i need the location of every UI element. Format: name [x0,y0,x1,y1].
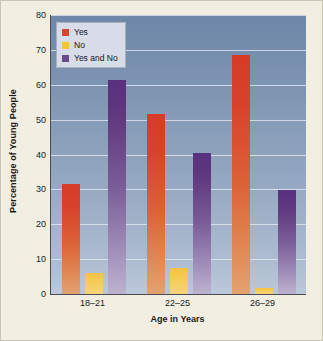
y-axis-title-text: Percentage of Young People [8,89,18,213]
y-axis-tick-60: 60 [36,80,46,90]
legend-item-yes[interactable]: Yes [62,27,118,37]
x-axis-tick-0: 18–21 [80,298,105,308]
gridline-0 [51,294,306,295]
legend-swatch-icon [62,29,69,36]
y-axis-tick-0: 0 [41,289,46,299]
y-axis-tick-80: 80 [36,10,46,20]
chart-legend: YesNoYes and No [56,22,126,68]
y-axis-tick-labels: 01020304050607080 [25,15,49,294]
x-axis-title: Age in Years [50,314,305,324]
x-axis-tick-labels: 18–2122–2526–29 [50,298,305,312]
legend-swatch-icon [62,42,69,49]
y-axis-tick-30: 30 [36,184,46,194]
bar-yes-and-no-1 [193,153,211,294]
y-axis-tick-10: 10 [36,254,46,264]
legend-label: Yes and No [74,54,118,63]
bar-no-0 [85,273,103,294]
chart-figure: Percentage of Young People 0102030405060… [0,0,323,341]
bar-no-2 [255,288,273,294]
bar-yes-and-no-0 [108,80,126,294]
bar-yes-2 [232,55,250,294]
bar-yes-1 [147,114,165,294]
legend-label: Yes [74,28,88,37]
legend-label: No [74,41,85,50]
bar-yes-0 [62,184,80,294]
x-axis-tick-1: 22–25 [165,298,190,308]
bar-no-1 [170,268,188,294]
x-axis-tick-2: 26–29 [250,298,275,308]
legend-item-yes-and-no[interactable]: Yes and No [62,53,118,63]
y-axis-tick-20: 20 [36,219,46,229]
y-axis-tick-70: 70 [36,45,46,55]
bar-yes-and-no-2 [278,190,296,294]
legend-item-no[interactable]: No [62,40,118,50]
y-axis-title: Percentage of Young People [1,1,25,301]
y-axis-tick-50: 50 [36,115,46,125]
y-axis-tick-40: 40 [36,150,46,160]
legend-swatch-icon [62,55,69,62]
